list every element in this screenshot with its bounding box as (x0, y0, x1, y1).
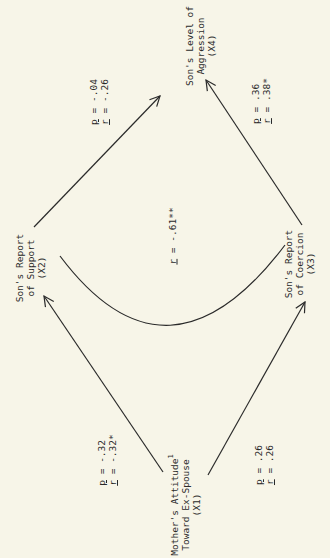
node-x2-line-1: Son's Report (14, 234, 25, 303)
node-x1-line-3: (X1) (191, 454, 202, 555)
r-coefficient: r = -.32* (107, 434, 118, 486)
node-x1-line-1: Mother's Attitude1 (169, 454, 180, 555)
stats-x3-x4: p = .36 r = .38* (250, 78, 272, 124)
footnote-marker: 1 (167, 454, 175, 458)
p-coefficient: p = .26 (253, 445, 264, 485)
node-x3-line-1: Son's Report (283, 230, 294, 299)
stats-x2-x4: p = -.04 r = -.26 (88, 79, 110, 125)
node-x4: Son's Level of Aggression (X4) (184, 6, 217, 86)
node-x1-line-2: Toward Ex-Spouse (180, 454, 191, 555)
node-x3-line-3: (X3) (305, 230, 316, 299)
node-x2-line-3: (X2) (36, 234, 47, 303)
p-coefficient: p = .36 (250, 78, 261, 124)
node-x2: Son's Report of Support (X2) (14, 234, 47, 303)
node-x4-line-1: Son's Level of (184, 6, 195, 86)
node-x4-line-2: Aggression (195, 6, 206, 86)
node-x2-line-2: of Support (25, 234, 36, 303)
r-coefficient: r = -.26 (99, 79, 110, 125)
path-diagram: Son's Level of Aggression (X4) Son's Rep… (0, 0, 330, 558)
node-x3-line-2: of Coercion (294, 230, 305, 299)
node-x3: Son's Report of Coercion (X3) (283, 230, 316, 299)
node-x1: Mother's Attitude1 Toward Ex-Spouse (X1) (169, 454, 202, 555)
node-x4-line-3: (X4) (206, 6, 217, 86)
r-coefficient: r = .38* (261, 78, 272, 124)
stats-x1-x2: p = -.32 r = -.32* (96, 434, 118, 486)
diagram-edges (0, 0, 330, 558)
r-coefficient: r = .26 (264, 445, 275, 485)
p-coefficient: p = -.32 (96, 434, 107, 486)
p-coefficient: p = -.04 (88, 79, 99, 125)
r-coefficient: r = -.61** (167, 207, 178, 264)
stats-correlation-x2-x3: r = -.61** (167, 207, 178, 264)
stats-x1-x3: p = .26 r = .26 (253, 445, 275, 485)
node-x1-line-1-text: Mother's Attitude (169, 458, 180, 555)
